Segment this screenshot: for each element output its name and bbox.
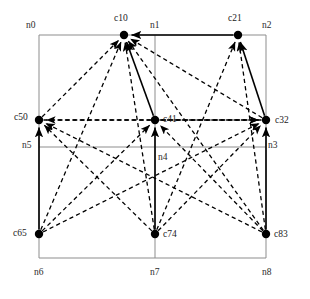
grid-node-labels: n0n1n2n3n4n5n6n7n8 — [22, 20, 278, 277]
edge-c83-to-c21 — [239, 42, 265, 229]
vertex-dot-c21[interactable] — [234, 31, 242, 39]
vertex-dot-c50[interactable] — [35, 116, 43, 124]
vertex-label-c41: c41 — [163, 114, 177, 124]
edge-c74-to-c21 — [157, 42, 235, 230]
grid-label-n6: n6 — [34, 267, 44, 277]
edge-c74-to-c50 — [44, 125, 151, 231]
vertex-label-c83: c83 — [274, 229, 288, 239]
grid-label-n3: n3 — [268, 140, 278, 150]
grid-label-n5: n5 — [22, 140, 32, 150]
grid-label-n7: n7 — [150, 267, 160, 277]
vertex-label-c50: c50 — [14, 112, 28, 122]
dashed-edges — [41, 39, 266, 232]
solid-edges — [39, 35, 266, 230]
vertex-label-c21: c21 — [228, 13, 242, 23]
vertex-label-c10: c10 — [114, 13, 128, 23]
edge-c65-to-c32 — [43, 123, 259, 232]
grid-label-n1: n1 — [150, 20, 160, 30]
vertex-dot-c65[interactable] — [35, 230, 43, 238]
graph-canvas: c10c21c32c41c50c65c74c83 n0n1n2n3n4n5n6n… — [0, 0, 310, 299]
vertex-dots — [35, 31, 270, 238]
edge-c83-to-c10 — [128, 41, 263, 230]
vertex-dot-c32[interactable] — [262, 116, 270, 124]
edge-c65-to-c41 — [42, 125, 149, 231]
vertex-label-c32: c32 — [275, 115, 289, 125]
edge-c65-to-c10 — [41, 42, 121, 230]
edge-c83-to-c50 — [46, 123, 262, 232]
vertex-label-c65: c65 — [13, 228, 27, 238]
vertex-label-c74: c74 — [163, 229, 177, 239]
vertex-dot-c83[interactable] — [262, 230, 270, 238]
edge-c41-to-c10 — [127, 42, 154, 116]
grid-label-n8: n8 — [262, 267, 272, 277]
vertex-dot-c10[interactable] — [120, 31, 128, 39]
edge-c83-to-c41 — [160, 125, 263, 230]
edge-c50-to-c10 — [42, 40, 119, 117]
edge-c74-to-c32 — [158, 125, 261, 230]
grid-label-n2: n2 — [262, 20, 272, 30]
grid-lines — [39, 35, 266, 258]
grid-label-n4: n4 — [158, 152, 168, 162]
graph-diagram: c10c21c32c41c50c65c74c83 n0n1n2n3n4n5n6n… — [0, 0, 310, 299]
vertex-dot-c74[interactable] — [151, 230, 159, 238]
vertex-dot-c41[interactable] — [151, 116, 159, 124]
grid-label-n0: n0 — [26, 20, 36, 30]
